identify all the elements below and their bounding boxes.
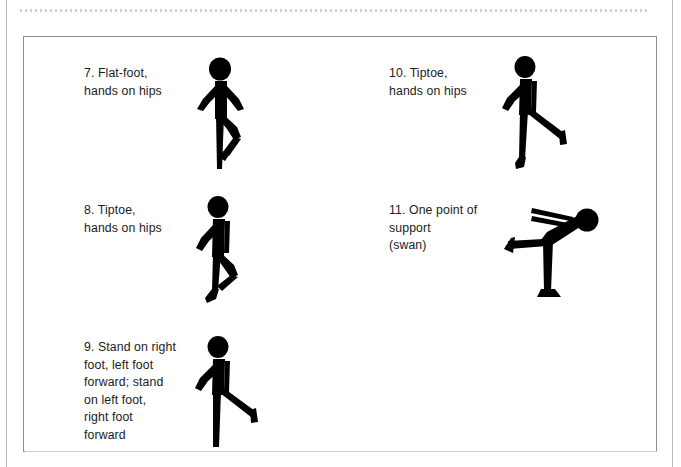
exercise-label-10: 10. Tiptoe, hands on hips — [389, 65, 467, 100]
exercise-label-11: 11. One point of support (swan) — [389, 202, 477, 255]
dotted-rule-top — [20, 9, 650, 12]
exercise-item-10: 10. Tiptoe, hands on hips — [24, 37, 658, 177]
page-edge-right-line — [672, 0, 673, 467]
balance-exercise-panel: 7. Flat-foot, hands on hips 8. T — [23, 36, 657, 452]
exercise-item-9: 9. Stand on right foot, left foot forwar… — [24, 317, 324, 453]
exercise-figure-9 — [189, 335, 269, 453]
exercise-item-11: 11. One point of support (swan) — [24, 177, 658, 317]
exercise-label-9: 9. Stand on right foot, left foot forwar… — [84, 339, 176, 444]
exercise-figure-11 — [489, 195, 604, 305]
page-edge-left-line — [6, 0, 7, 467]
stick-figure-stand-one-foot-other-forward — [189, 335, 269, 453]
exercise-figure-10 — [496, 55, 576, 173]
stick-figure-tiptoe-leg-forward — [496, 55, 576, 173]
stick-figure-one-point-support-swan — [489, 195, 604, 305]
